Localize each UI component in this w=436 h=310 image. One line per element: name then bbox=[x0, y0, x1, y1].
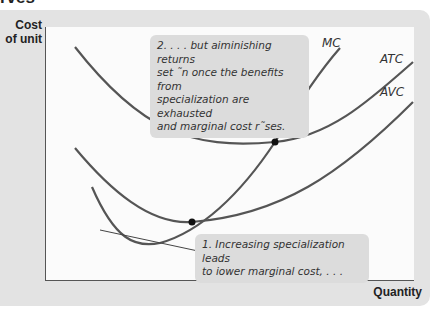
annotation-1: 1. Increasing specialization leads to io… bbox=[195, 234, 369, 283]
atc-min-point bbox=[272, 139, 279, 146]
annotation-2-line3: specialization are exhausted bbox=[157, 93, 302, 120]
avc-label: AVC bbox=[380, 85, 404, 99]
avc-min-point bbox=[189, 219, 196, 226]
annotation-2-line2: set ˜n once the benefits from bbox=[157, 66, 302, 93]
annotation-1-line2: to iower marginal cost, . . . bbox=[202, 265, 362, 279]
atc-label: ATC bbox=[380, 52, 403, 66]
annotation-2-line4: and marginal cost r˜ses. bbox=[157, 120, 302, 134]
annotation-1-line1: 1. Increasing specialization leads bbox=[202, 238, 362, 265]
annotation-2: 2. . . . but aiminishing returns set ˜n … bbox=[150, 35, 309, 138]
mc-label: MC bbox=[322, 36, 341, 50]
annotation-2-line1: 2. . . . but aiminishing returns bbox=[157, 39, 302, 66]
